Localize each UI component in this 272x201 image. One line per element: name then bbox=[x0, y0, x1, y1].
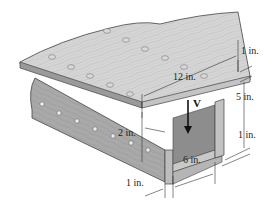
shear-force-label: V bbox=[193, 98, 201, 109]
dim-top-thickness: 1 in. bbox=[241, 46, 259, 56]
dim-right-wall: 1 in. bbox=[238, 130, 256, 140]
dim-overhang: 2 in. bbox=[118, 128, 136, 138]
dim-left-wall: 1 in. bbox=[126, 178, 144, 188]
dim-web-height: 5 in. bbox=[236, 92, 254, 102]
box-beam-diagram bbox=[0, 0, 272, 201]
dim-top-width: 12 in. bbox=[173, 72, 196, 82]
dim-inner-width: 6 in. bbox=[183, 155, 201, 165]
